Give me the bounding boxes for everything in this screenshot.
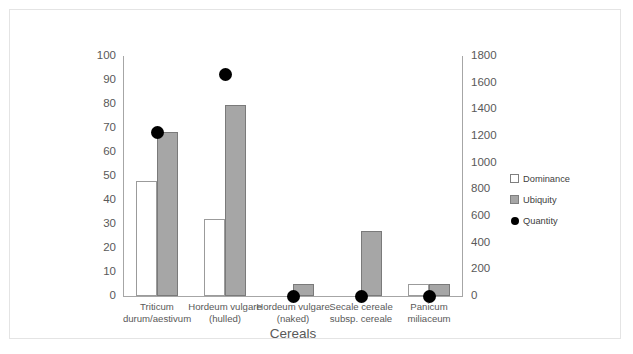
right-axis-tick: 600 — [471, 210, 490, 222]
left-axis-tick: 50 — [103, 170, 116, 182]
left-axis-tick: 80 — [103, 98, 116, 110]
bar-ubiquity[interactable] — [225, 105, 246, 296]
right-axis-tick: 400 — [471, 237, 490, 249]
right-axis-tick: 1600 — [471, 77, 497, 89]
right-axis-tick: 1000 — [471, 157, 497, 169]
x-axis-title: Cereals — [123, 326, 463, 341]
quantity-data-point[interactable] — [219, 68, 232, 81]
left-axis-tick: 10 — [103, 266, 116, 278]
bar-dominance[interactable] — [136, 181, 157, 296]
dominance-swatch-icon — [510, 174, 519, 183]
chart-legend: Dominance Ubiquity Quantity — [510, 168, 600, 231]
right-axis-tick: 1400 — [471, 103, 497, 115]
category-label-line: miliaceum — [385, 313, 473, 325]
legend-item-dominance[interactable]: Dominance — [510, 168, 600, 189]
right-axis-tick: 1200 — [471, 130, 497, 142]
legend-item-quantity[interactable]: Quantity — [510, 210, 600, 231]
legend-label: Dominance — [523, 174, 570, 184]
quantity-marker-icon — [511, 217, 519, 225]
bar-group — [327, 56, 395, 296]
left-axis-tick: 90 — [103, 74, 116, 86]
left-axis-tick: 60 — [103, 146, 116, 158]
left-axis-tick: 0 — [110, 290, 116, 302]
right-axis-tick: 200 — [471, 263, 490, 275]
ubiquity-swatch-icon — [510, 195, 519, 204]
right-axis-tick: 800 — [471, 183, 490, 195]
bar-group — [259, 56, 327, 296]
plot-area — [123, 56, 463, 297]
category-label: Panicummiliaceum — [385, 301, 473, 325]
bar-dominance[interactable] — [204, 219, 225, 296]
legend-item-ubiquity[interactable]: Ubiquity — [510, 189, 600, 210]
left-axis-tick: 100 — [97, 50, 116, 62]
bar-group — [123, 56, 191, 296]
right-axis-tick-labels: 020040060080010001200140016001800 — [471, 56, 511, 297]
bar-group — [191, 56, 259, 296]
legend-label: Ubiquity — [523, 195, 557, 205]
bar-ubiquity[interactable] — [157, 132, 178, 296]
left-axis-tick: 70 — [103, 122, 116, 134]
right-axis-tick: 1800 — [471, 50, 497, 62]
category-label-line: Panicum — [385, 301, 473, 313]
chart-frame: 0102030405060708090100 02004006008001000… — [9, 9, 621, 339]
left-axis-tick-labels: 0102030405060708090100 — [85, 56, 116, 297]
left-axis-tick: 30 — [103, 218, 116, 230]
bar-ubiquity[interactable] — [361, 231, 382, 296]
left-axis-tick: 40 — [103, 194, 116, 206]
legend-label: Quantity — [523, 216, 558, 226]
left-axis-tick: 20 — [103, 242, 116, 254]
right-axis-tick: 0 — [471, 290, 477, 302]
quantity-data-point[interactable] — [151, 126, 164, 139]
bar-group — [395, 56, 463, 296]
